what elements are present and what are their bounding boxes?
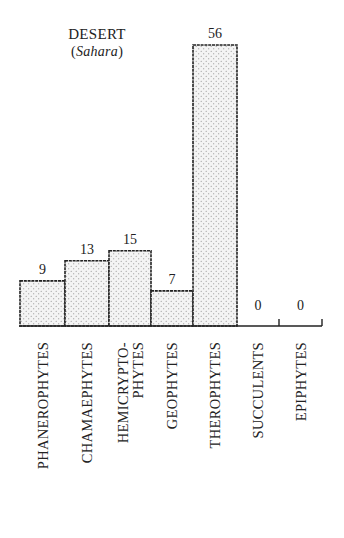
category-labels: PHANEROPHYTESCHAMAEPHYTESHEMICRYPTO-PHYT… (35, 342, 309, 469)
value-label: 9 (39, 262, 46, 277)
bar-phanerophytes (20, 281, 65, 326)
category-label: PHANEROPHYTES (35, 342, 51, 469)
category-label: THEROPHYTES (207, 342, 223, 448)
bars-group (20, 45, 237, 326)
bar-geophytes (151, 291, 193, 326)
bar-hemicryptophytes (109, 251, 151, 326)
value-label: 0 (297, 298, 304, 313)
category-label: HEMICRYPTO- (115, 342, 131, 443)
category-label: PHYTES (130, 342, 146, 399)
category-label: CHAMAEPHYTES (79, 342, 95, 463)
category-label: GEOPHYTES (164, 342, 180, 429)
value-label: 7 (169, 272, 176, 287)
value-label: 0 (255, 298, 262, 313)
value-label: 15 (123, 232, 137, 247)
value-label: 13 (80, 242, 94, 257)
life-form-spectrum-chart: DESERT (Sahara) 9131575600 PHANEROPHYTES… (0, 0, 344, 538)
category-label: SUCCULENTS (250, 342, 266, 438)
bar-plot: 9131575600 PHANEROPHYTESCHAMAEPHYTESHEMI… (0, 0, 344, 538)
value-label: 56 (208, 26, 222, 41)
bar-therophytes (193, 45, 237, 326)
category-label: EPIPHYTES (293, 342, 309, 421)
bar-chamaephytes (65, 261, 109, 326)
